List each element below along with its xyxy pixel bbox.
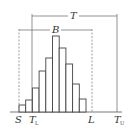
l-label: L [87, 114, 95, 125]
t-bracket-label: T [70, 10, 78, 21]
tl-label-subscript: L [35, 120, 39, 126]
histogram-bar [66, 64, 73, 112]
histogram-bar [73, 84, 80, 112]
b-bracket-label: B [51, 24, 59, 35]
histogram-bar [32, 88, 39, 112]
histogram-bar [53, 36, 60, 112]
s-label: S [15, 114, 22, 125]
histogram-bar [26, 100, 33, 112]
histogram-bar [46, 58, 53, 112]
histogram-diagram: T B S T L L T U [0, 0, 130, 130]
histogram-bar [39, 71, 46, 112]
histogram-bars [19, 36, 86, 112]
tu-label-subscript: U [120, 120, 124, 126]
histogram-bar [59, 48, 66, 112]
histogram-bar [19, 105, 26, 112]
histogram-bar [79, 99, 86, 112]
